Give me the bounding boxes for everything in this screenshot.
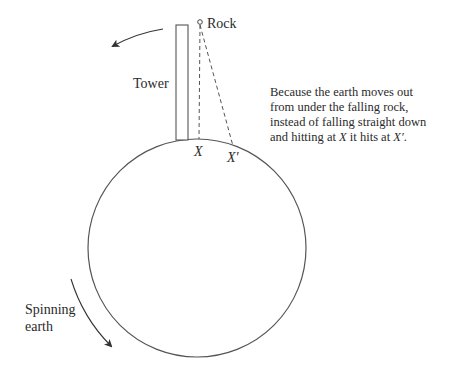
spinning-earth-label-1: Spinning — [25, 302, 76, 317]
caption: Because the earth moves out from under t… — [270, 85, 427, 144]
caption-line-2: from under the falling rock, — [270, 100, 409, 114]
caption-line-1: Because the earth moves out — [270, 85, 414, 99]
caption-line-3: instead of falling straight down — [270, 115, 427, 129]
spinning-earth-label-2: earth — [25, 319, 53, 334]
tower-motion-arrow — [113, 29, 163, 46]
falling-rock-diagram: Rock Tower X X′ Spinning earth Because t… — [0, 0, 457, 374]
caption-line-4: and hitting at X it hits at X′. — [270, 130, 407, 144]
earth-circle — [88, 139, 306, 357]
straight-fall-path — [199, 25, 200, 139]
caption-line-4-mid: it hits at — [347, 130, 394, 144]
rock-label: Rock — [207, 16, 237, 31]
actual-fall-path — [200, 25, 233, 146]
rock-icon — [198, 20, 203, 25]
tower-label: Tower — [133, 76, 169, 91]
tower — [176, 25, 188, 140]
x-label: X — [193, 144, 203, 159]
earth-spin-arrow — [71, 279, 111, 346]
x-prime-label: X′ — [226, 150, 240, 165]
caption-line-4-end: . — [404, 130, 407, 144]
caption-x-prime: X′ — [392, 130, 404, 144]
caption-line-4-pre: and hitting at — [270, 130, 339, 144]
